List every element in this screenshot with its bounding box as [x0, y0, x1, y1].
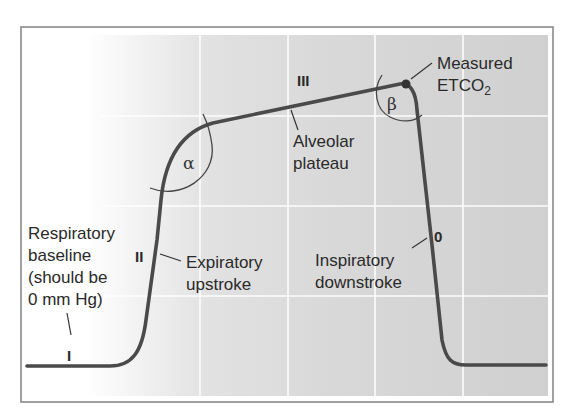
label-line: Measured: [437, 54, 513, 73]
label-line: Respiratory: [28, 224, 115, 243]
label-line: Inspiratory: [315, 251, 395, 270]
etco-text: ETCO: [437, 76, 484, 95]
label-line: Alveolar: [293, 132, 355, 151]
label-line: upstroke: [186, 275, 251, 294]
label-line: baseline: [28, 246, 91, 265]
phase-i-label: I: [67, 347, 71, 364]
etco2-subscript: 2: [484, 84, 491, 98]
label-line: downstroke: [315, 273, 402, 292]
label-line: (should be: [28, 268, 107, 287]
label-line: plateau: [293, 154, 349, 173]
capnogram-diagram: α β I II III 0 Respiratory baseline (sho…: [0, 0, 571, 417]
beta-angle-label: β: [387, 94, 397, 114]
label-line: 0 mm Hg): [28, 290, 103, 309]
label-line: Expiratory: [186, 253, 263, 272]
etco2-measurement-dot: [402, 80, 411, 89]
phase-zero-label: 0: [434, 228, 442, 245]
label-line: ETCO2: [437, 76, 491, 98]
alpha-angle-label: α: [183, 153, 195, 173]
phase-ii-label: II: [135, 248, 143, 265]
phase-iii-label: III: [297, 72, 310, 89]
